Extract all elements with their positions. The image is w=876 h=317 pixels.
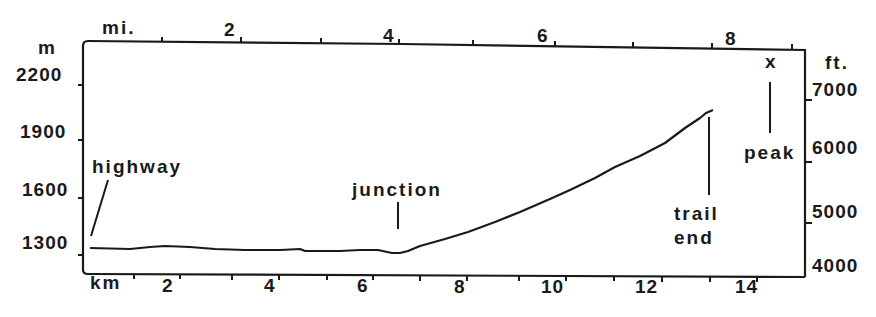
left-tick-label: 1300: [22, 233, 68, 252]
bottom-tick-label: 10: [541, 277, 564, 296]
annotation-junction: junction: [352, 180, 442, 199]
ft-axis-label: ft.: [825, 53, 849, 72]
right-tick-label: 7000: [812, 80, 858, 99]
m-axis-label: m: [38, 38, 57, 57]
annotation-peak: peak: [744, 143, 795, 162]
left-tick-label: 2200: [16, 65, 62, 84]
top-tick-label: 8: [725, 29, 737, 48]
top-tick-label: 4: [383, 26, 395, 45]
annotation-highway: highway: [92, 157, 182, 176]
bottom-tick-label: 14: [735, 277, 758, 296]
top-tick-label: 6: [537, 26, 549, 45]
right-tick-label: 6000: [812, 138, 858, 157]
bottom-tick-label: 4: [264, 276, 276, 295]
bottom-tick-label: 8: [454, 277, 466, 296]
annotation-end: end: [674, 228, 714, 247]
left-tick-label: 1600: [22, 180, 68, 199]
top-tick-label: 2: [224, 20, 236, 39]
mi-axis-label: mi.: [102, 18, 135, 37]
km-axis-label: km: [90, 273, 121, 292]
peak-x-marker-icon: x: [765, 52, 778, 71]
bottom-tick-label: 2: [162, 276, 174, 295]
right-tick-label: 5000: [812, 202, 858, 221]
right-tick-label: 4000: [812, 256, 858, 275]
bottom-tick-label: 6: [357, 276, 369, 295]
bottom-tick-label: 12: [635, 277, 658, 296]
annotation-trail: trail: [674, 204, 719, 223]
left-tick-label: 1900: [20, 122, 66, 141]
annotation-leaders: [91, 82, 770, 236]
